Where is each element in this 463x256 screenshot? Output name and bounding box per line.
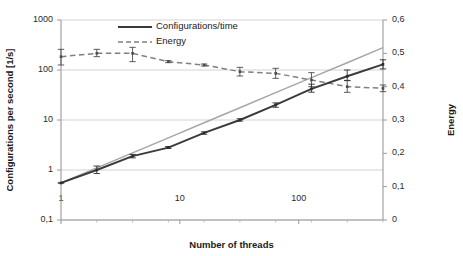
chart-plot-area [0, 0, 463, 256]
data-point-marker [382, 87, 385, 90]
data-point-marker [131, 52, 134, 55]
data-point-marker [274, 72, 277, 75]
data-point-marker [310, 79, 313, 82]
data-point-marker [167, 146, 170, 149]
data-point-marker [274, 104, 277, 107]
axis-ticks [57, 20, 387, 224]
data-point-marker [203, 132, 206, 135]
series-line-configurations-time [61, 64, 383, 183]
chart-figure: Configurations per second [1/s] Energy N… [0, 0, 463, 256]
series-line-energy [61, 53, 383, 88]
data-point-marker [95, 169, 98, 172]
data-point-marker [131, 155, 134, 158]
data-point-marker [346, 85, 349, 88]
gridlines [61, 20, 383, 220]
data-point-marker [310, 88, 313, 91]
data-point-marker [167, 60, 170, 63]
data-point-marker [203, 64, 206, 67]
data-series-layer [58, 47, 386, 184]
data-point-marker [60, 182, 63, 185]
data-point-marker [60, 55, 63, 58]
data-point-marker [239, 70, 242, 73]
data-point-marker [346, 75, 349, 78]
data-point-marker [382, 63, 385, 66]
data-point-marker [239, 119, 242, 122]
data-point-marker [95, 52, 98, 55]
legend [118, 27, 152, 42]
